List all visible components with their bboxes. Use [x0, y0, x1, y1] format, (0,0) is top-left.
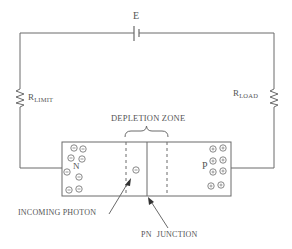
incoming-photon-label: INCOMING PHOTON — [18, 208, 96, 217]
p-region-label: P — [202, 160, 208, 171]
resistor-limit-label: RLIMIT — [28, 92, 53, 103]
photon-arrow-line — [109, 181, 129, 214]
resistor-load-label: RLOAD — [233, 88, 258, 99]
pn-junction-label: PN JUNCTION — [141, 230, 198, 239]
junction-arrow-line — [150, 200, 168, 228]
battery-label: E — [133, 10, 139, 21]
n-region-label: N — [73, 161, 80, 171]
resistor-load-zigzag — [270, 89, 278, 107]
p-region-holes — [208, 145, 226, 189]
depletion-zone-label: DEPLETION ZONE — [111, 113, 185, 123]
resistor-limit-label-sub: LIMIT — [34, 96, 53, 103]
junction-arrowhead — [148, 197, 154, 205]
p-region-plus-signs — [210, 147, 225, 188]
resistor-limit-zigzag — [16, 89, 24, 107]
resistor-load-label-sub: LOAD — [239, 92, 258, 99]
depletion-zone-brace — [125, 126, 168, 137]
